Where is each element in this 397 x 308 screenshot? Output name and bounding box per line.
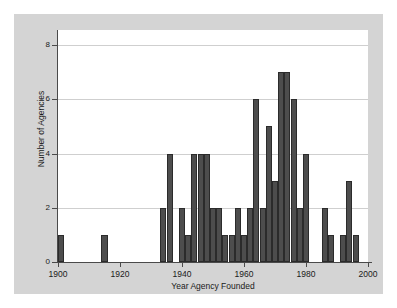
figure-container: 02468 190019201940196019802000 Year Agen… — [14, 14, 383, 294]
y-tick-0 — [52, 262, 57, 263]
x-tick-label-2000: 2000 — [353, 269, 383, 279]
x-tick-label-1920: 1920 — [105, 269, 135, 279]
x-tick-1960 — [244, 263, 245, 267]
x-tick-1900 — [58, 263, 59, 267]
histogram-bar — [167, 154, 173, 263]
y-axis-title: Number of Agencies — [36, 54, 46, 204]
x-tick-label-1960: 1960 — [229, 269, 259, 279]
x-tick-label-1900: 1900 — [43, 269, 73, 279]
gridline-y-6 — [58, 99, 368, 100]
histogram-bar — [101, 235, 107, 262]
x-tick-label-1980: 1980 — [291, 269, 321, 279]
y-axis-line — [57, 30, 58, 263]
x-axis-line — [57, 262, 372, 263]
y-tick-label-0: 0 — [36, 258, 50, 266]
histogram-bar — [58, 235, 64, 262]
y-tick-2 — [52, 208, 57, 209]
y-tick-8 — [52, 45, 57, 46]
y-tick-6 — [52, 99, 57, 100]
gridline-y-8 — [58, 45, 368, 46]
histogram-bar — [303, 154, 309, 263]
x-axis-title: Year Agency Founded — [58, 281, 368, 291]
y-tick-label-2: 2 — [36, 204, 50, 212]
x-tick-1940 — [182, 263, 183, 267]
x-tick-1980 — [306, 263, 307, 267]
x-tick-label-1940: 1940 — [167, 269, 197, 279]
x-tick-2000 — [368, 263, 369, 267]
histogram-bar — [328, 235, 334, 262]
x-tick-1920 — [120, 263, 121, 267]
y-tick-4 — [52, 154, 57, 155]
histogram-bar — [353, 235, 359, 262]
gridline-y-4 — [58, 154, 368, 155]
y-tick-label-8: 8 — [36, 41, 50, 49]
